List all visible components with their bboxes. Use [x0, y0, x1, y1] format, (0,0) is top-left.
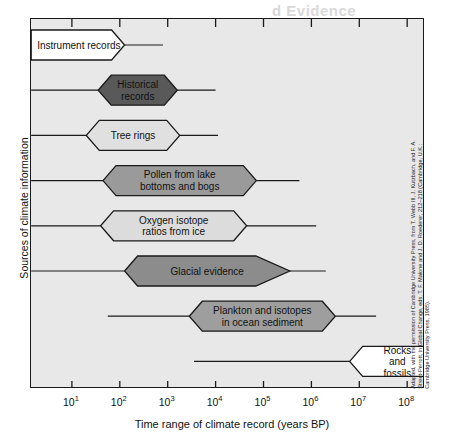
band-label-line: Instrument records: [37, 40, 120, 51]
band-label-line: ratios from ice: [142, 226, 205, 237]
band-label-line: Tree rings: [111, 130, 156, 141]
band-label-line: Glacial evidence: [171, 266, 245, 277]
band-4: Pollen from lakebottoms and bogs: [31, 166, 299, 196]
band-label-line: fossils: [383, 368, 411, 379]
band-label-line: Historical: [117, 79, 158, 90]
climate-record-figure: d Evidence Instrument recordsHistoricalr…: [0, 0, 450, 442]
band-label-line: and: [389, 356, 406, 367]
band-label-line: bottoms and bogs: [140, 181, 220, 192]
band-label-line: Oxygen isotope: [139, 215, 209, 226]
band-6: Glacial evidence: [31, 256, 326, 286]
y-axis-title: Sources of climate information: [18, 88, 30, 328]
x-tick-label-6: 106: [302, 394, 318, 408]
x-tick-label-8: 108: [398, 394, 414, 408]
band-8: Rocksandfossils: [194, 345, 424, 379]
x-tick-label-1: 101: [63, 394, 79, 408]
band-7: Plankton and isotopesin ocean sediment: [108, 301, 376, 331]
band-5: Oxygen isotoperatios from ice: [31, 211, 316, 241]
plot-svg: Instrument recordsHistoricalrecordsTree …: [31, 19, 424, 388]
x-tick-label-2: 102: [111, 394, 127, 408]
x-axis-title: Time range of climate record (years BP): [0, 418, 450, 430]
band-label-line: Plankton and isotopes: [213, 305, 311, 316]
x-axis-title-text: Time range of climate record (years BP): [135, 418, 330, 430]
band-1: Instrument records: [31, 30, 163, 60]
background-page-heading: d Evidence: [272, 2, 356, 19]
x-tick-label-7: 107: [350, 394, 366, 408]
band-2: Historicalrecords: [31, 75, 215, 105]
band-label-line: in ocean sediment: [222, 317, 303, 328]
plot-area: Instrument recordsHistoricalrecordsTree …: [30, 18, 424, 388]
figure-credit: Adapted, with the permission of Cambridg…: [410, 139, 432, 389]
band-label-line: Rocks: [383, 345, 411, 356]
x-tick-label-3: 103: [159, 394, 175, 408]
band-3: Tree rings: [31, 120, 218, 150]
band-label-line: records: [121, 91, 154, 102]
band-label-line: Pollen from lake: [144, 169, 216, 180]
x-tick-label-4: 104: [207, 394, 223, 408]
x-tick-label-5: 105: [255, 394, 271, 408]
